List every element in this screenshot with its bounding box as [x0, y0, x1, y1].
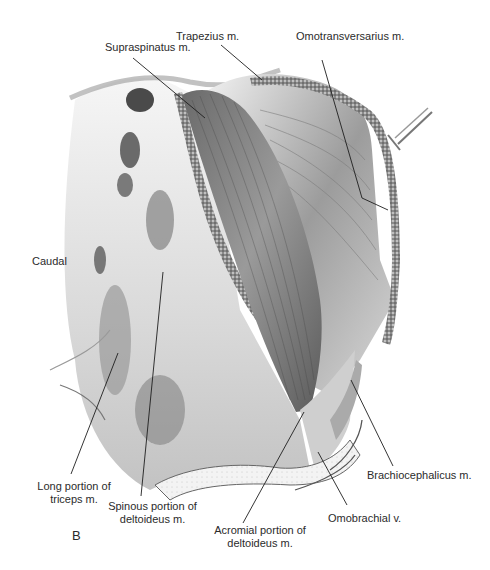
anatomical-illustration: Supraspinatus m. Trapezius m. Omotransve… — [0, 0, 490, 570]
label-acromial-portion-deltoideus: Acromial portion of deltoideus m. — [210, 524, 310, 550]
label-spinous-portion-deltoideus: Spinous portion of deltoideus m. — [105, 500, 200, 526]
label-brachiocephalicus: Brachiocephalicus m. — [367, 469, 472, 482]
label-line: deltoideus m. — [210, 537, 310, 550]
label-line: Long portion of — [24, 480, 124, 493]
label-line: Acromial portion of — [210, 524, 310, 537]
label-trapezius: Trapezius m. — [176, 30, 239, 43]
panel-letter: B — [72, 528, 81, 543]
label-omotransversarius: Omotransversarius m. — [296, 30, 404, 43]
label-line: deltoideus m. — [105, 513, 200, 526]
label-caudal: Caudal — [32, 255, 67, 268]
label-omobrachial-vein: Omobrachial v. — [328, 512, 401, 525]
label-line: Spinous portion of — [105, 500, 200, 513]
